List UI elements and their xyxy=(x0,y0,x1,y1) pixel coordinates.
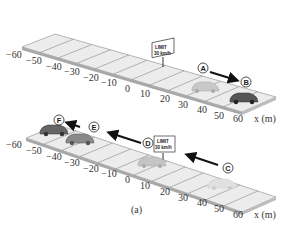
bottom-road xyxy=(26,125,276,215)
svg-text:10: 10 xyxy=(140,88,150,99)
svg-text:D: D xyxy=(145,139,151,148)
arrow-d-to-e xyxy=(110,133,141,143)
svg-text:30: 30 xyxy=(178,99,188,110)
svg-text:30 km/h: 30 km/h xyxy=(154,51,171,56)
svg-text:−10: −10 xyxy=(101,77,117,88)
figure-caption: (a) xyxy=(131,204,142,216)
svg-text:E: E xyxy=(92,123,97,132)
svg-text:30 km/h: 30 km/h xyxy=(155,145,172,150)
arrow-e-to-f xyxy=(68,123,80,127)
point-f: F xyxy=(54,115,64,125)
svg-text:LIMIT: LIMIT xyxy=(155,45,167,50)
svg-text:B: B xyxy=(244,78,250,87)
point-c: C xyxy=(223,163,233,173)
svg-text:C: C xyxy=(225,164,231,173)
svg-text:10: 10 xyxy=(140,180,150,191)
arrow-a-to-b xyxy=(210,72,236,80)
point-a: A xyxy=(198,63,208,73)
svg-text:−60: −60 xyxy=(6,139,22,150)
svg-text:LIMIT: LIMIT xyxy=(157,139,169,144)
svg-text:60: 60 xyxy=(233,209,243,220)
svg-text:50: 50 xyxy=(214,203,224,214)
svg-text:60: 60 xyxy=(233,113,243,124)
speed-limit-sign-bottom: LIMIT 30 km/h xyxy=(154,136,175,160)
svg-text:F: F xyxy=(57,116,62,125)
svg-text:−40: −40 xyxy=(46,151,62,162)
svg-text:30: 30 xyxy=(178,192,188,203)
point-e: E xyxy=(89,122,99,132)
svg-text:−60: −60 xyxy=(6,49,22,60)
axis-label-bottom: x (m) xyxy=(254,209,276,221)
svg-text:−50: −50 xyxy=(26,145,42,156)
svg-text:−30: −30 xyxy=(64,66,80,77)
svg-text:0: 0 xyxy=(125,83,130,94)
axis-label-top: x (m) xyxy=(254,113,276,125)
arrow-c-to-d xyxy=(188,155,218,165)
point-b: B xyxy=(241,77,251,87)
svg-text:A: A xyxy=(201,64,207,73)
svg-text:−50: −50 xyxy=(26,55,42,66)
svg-text:40: 40 xyxy=(197,197,207,208)
svg-text:−20: −20 xyxy=(83,72,99,83)
svg-text:−30: −30 xyxy=(64,157,80,168)
svg-text:50: 50 xyxy=(214,110,224,121)
svg-text:20: 20 xyxy=(160,93,170,104)
motion-diagram: LIMIT 30 km/h A B −60 −50 −40 −30 −20 −1… xyxy=(0,0,288,230)
svg-text:20: 20 xyxy=(160,186,170,197)
road-surface xyxy=(26,125,276,212)
point-d: D xyxy=(143,138,153,148)
svg-text:0: 0 xyxy=(125,174,130,185)
svg-text:40: 40 xyxy=(197,104,207,115)
svg-text:−10: −10 xyxy=(101,168,117,179)
svg-text:−20: −20 xyxy=(83,163,99,174)
svg-text:−40: −40 xyxy=(46,61,62,72)
